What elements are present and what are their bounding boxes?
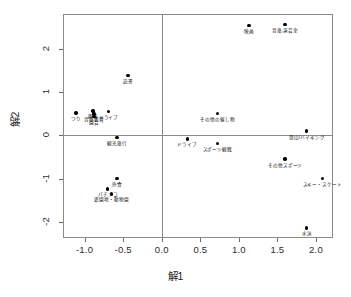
data-point-label: 観光旅行 — [107, 141, 127, 146]
x-tick-mark — [316, 238, 317, 242]
data-point-label: 登山/ハイキング — [289, 135, 324, 140]
y-tick-label: -2 — [40, 210, 51, 232]
x-tick-label: 2.0 — [299, 244, 333, 255]
y-tick-mark — [59, 135, 63, 136]
data-point — [115, 177, 118, 180]
x-tick-mark — [162, 238, 163, 242]
data-point — [92, 115, 95, 118]
data-point-label: 映画 — [244, 29, 254, 34]
x-tick-label: 1.0 — [222, 244, 256, 255]
x-tick-label: 0.5 — [183, 244, 217, 255]
x-tick-mark — [277, 238, 278, 242]
data-point-label: 音楽,演芸全 — [272, 28, 298, 33]
x-tick-mark — [239, 238, 240, 242]
data-point — [110, 192, 113, 195]
data-point-label: ドライブ — [99, 115, 119, 120]
data-point — [247, 24, 250, 27]
x-tick-label: 0.0 — [145, 244, 179, 255]
data-point — [186, 137, 189, 140]
x-tick-mark — [123, 238, 124, 242]
data-point — [115, 136, 118, 139]
x-axis-title: 解1 — [0, 268, 351, 283]
x-tick-label: -0.5 — [106, 244, 140, 255]
data-point — [126, 74, 129, 77]
data-point-label: ドライブ — [177, 142, 197, 147]
data-point-label: 水泳 — [302, 231, 312, 236]
y-tick-mark — [59, 92, 63, 93]
data-point-label: 外食 — [112, 182, 122, 187]
y-tick-mark — [59, 222, 63, 223]
y-axis-title: 解2 — [7, 90, 22, 150]
data-point-label: 園芸 — [89, 120, 99, 125]
y-tick-label: 0 — [40, 124, 51, 146]
y-tick-label: 1 — [40, 81, 51, 103]
data-point — [283, 23, 286, 26]
data-point — [74, 111, 77, 114]
data-point-label: その他の催し物 — [200, 117, 234, 122]
x-tick-mark — [200, 238, 201, 242]
x-tick-mark — [85, 238, 86, 242]
data-point-label: つり — [71, 116, 81, 121]
x-tick-label: -1.0 — [68, 244, 102, 255]
y-tick-mark — [59, 179, 63, 180]
y-tick-label: 2 — [40, 38, 51, 60]
data-point-label: その他スポーツ — [268, 163, 302, 168]
data-point — [283, 157, 286, 160]
data-point-label: スポーツ観戦 — [203, 147, 232, 152]
plot-frame — [63, 14, 333, 238]
y-tick-label: -1 — [40, 167, 51, 189]
data-point-label: スキー・スケート — [303, 182, 342, 187]
data-point-label: 読書 — [123, 79, 133, 84]
y-tick-mark — [59, 49, 63, 50]
x-tick-label: 1.5 — [260, 244, 294, 255]
scatter-plot-figure: -1.0-0.50.00.51.01.52.0 210-1-2 映画音楽,演芸全… — [0, 0, 351, 297]
data-point-label: 遊園地・動物園 — [94, 197, 128, 202]
zero-line-vertical — [162, 14, 163, 238]
